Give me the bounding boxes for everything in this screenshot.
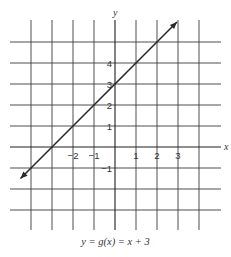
x-tick-label: −2	[68, 150, 79, 161]
y-tick-label: 4	[107, 58, 112, 69]
x-tick-label: 2	[154, 150, 159, 161]
x-tick-label: 3	[175, 150, 180, 161]
x-tick-label: −1	[89, 150, 100, 161]
x-tick-label: 1	[133, 150, 138, 161]
y-tick-label: −1	[101, 163, 112, 174]
x-axis-label: x	[223, 141, 229, 152]
axes	[10, 20, 221, 230]
y-tick-label: 1	[107, 121, 112, 132]
graph-caption: y = g(x) = x + 3	[0, 236, 231, 247]
graph-area: −2−11234321−1 x y	[0, 0, 231, 257]
y-axis-label: y	[112, 7, 118, 18]
y-tick-label: 2	[107, 100, 112, 111]
